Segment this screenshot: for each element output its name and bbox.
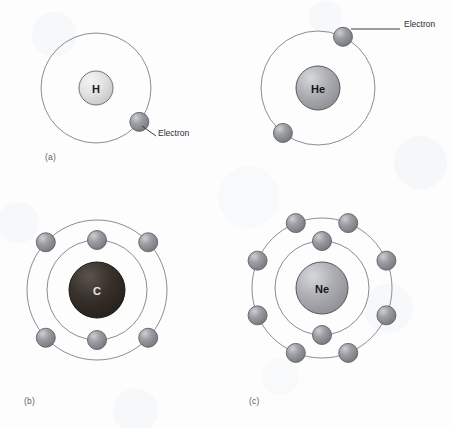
atom-helium: He (261, 27, 375, 145)
electron (377, 251, 396, 270)
electron (333, 27, 352, 46)
panel-label-b: (b) (24, 396, 35, 406)
electron-callout-b: Electron (404, 19, 435, 29)
atom-hydrogen: H (41, 33, 151, 143)
nucleus-symbol-h: H (92, 83, 100, 95)
panel-label-c: (c) (249, 396, 260, 406)
atom-diagrams-canvas: HHeCNe (0, 0, 452, 428)
atomic-structure-figure: HHeCNe (a)(b)(c)ElectronElectron (0, 0, 452, 428)
electron (36, 233, 55, 252)
electron (377, 306, 396, 325)
electron (286, 214, 305, 233)
electron (88, 331, 107, 350)
electron (339, 214, 358, 233)
panel-label-a: (a) (45, 152, 56, 162)
electron (88, 231, 107, 250)
electron (286, 343, 305, 362)
nucleus-symbol-he: He (311, 83, 325, 95)
electron (248, 306, 267, 325)
atoms-root: HHeCNe (27, 27, 396, 362)
nucleus-symbol-ne: Ne (315, 283, 329, 295)
electron-callout-a: Electron (158, 128, 189, 138)
electron (313, 326, 332, 345)
nucleus-symbol-c: C (93, 285, 101, 297)
atom-carbon: C (27, 220, 167, 360)
electron (313, 232, 332, 251)
electron (139, 328, 158, 347)
electron (339, 343, 358, 362)
leader-line (142, 126, 156, 136)
electron (273, 123, 292, 142)
electron (36, 328, 55, 347)
atom-neon: Ne (248, 214, 396, 363)
electron (248, 251, 267, 270)
electron (139, 233, 158, 252)
